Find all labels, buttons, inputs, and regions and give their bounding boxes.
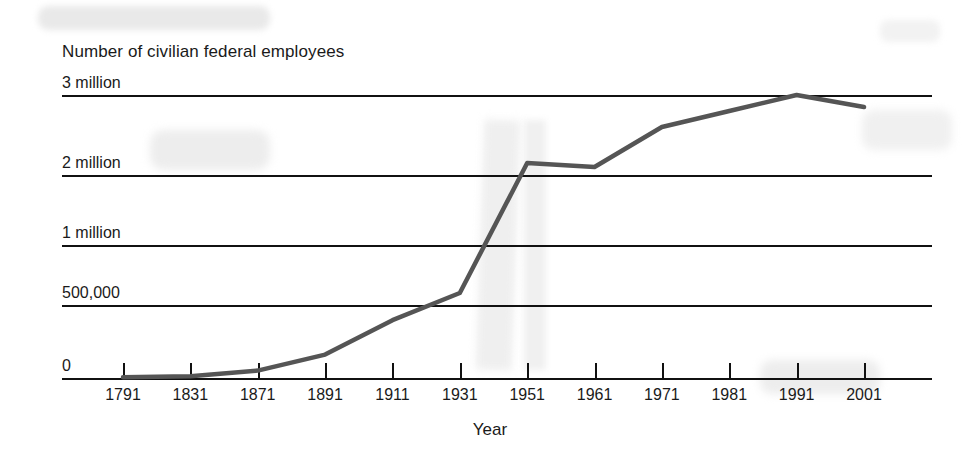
- chart-figure: Number of civilian federal employees 3 m…: [0, 0, 980, 464]
- plot-area: 3 million2 million1 million500,0000 1791…: [0, 0, 980, 464]
- data-series-line: [0, 0, 980, 464]
- x-axis-title: Year: [0, 420, 980, 440]
